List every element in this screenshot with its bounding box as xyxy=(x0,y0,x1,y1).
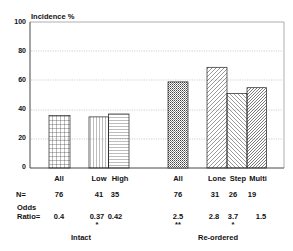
tick-80: 80 xyxy=(2,47,26,54)
n-label: N= xyxy=(16,190,26,199)
tick-40: 40 xyxy=(2,105,26,112)
sig-reordered-step: * xyxy=(218,220,248,229)
group-label-intact: Intact xyxy=(71,233,91,242)
bar-intact-low xyxy=(89,117,109,168)
bar-intact-all xyxy=(49,115,70,168)
tick-100: 100 xyxy=(2,18,26,25)
category-reordered-all: All xyxy=(163,174,193,183)
odds-label-line2: Ratio= xyxy=(17,212,40,221)
bar-reordered-multi xyxy=(247,88,267,168)
tick-60: 60 xyxy=(2,76,26,83)
sig-intact-low: * xyxy=(82,220,112,229)
n-intact-all: 76 xyxy=(44,190,74,199)
tick-20: 20 xyxy=(2,134,26,141)
group-label-reordered: Re-ordered xyxy=(198,233,238,242)
bars xyxy=(49,67,267,168)
odds-label-line1: Odds xyxy=(17,203,36,212)
n-intact-high: 35 xyxy=(100,190,130,199)
n-reordered-all: 76 xyxy=(163,190,193,199)
bar-reordered-lone xyxy=(207,67,227,168)
tick-0: 0 xyxy=(2,163,26,170)
category-intact-all: All xyxy=(44,174,74,183)
or-reordered-multi: 1.5 xyxy=(246,212,276,221)
or-intact-all: 0.4 xyxy=(44,212,74,221)
bar-reordered-all xyxy=(168,82,188,168)
bar-intact-high xyxy=(109,114,130,168)
n-reordered-multi: 19 xyxy=(237,190,267,199)
category-reordered-multi: Multi xyxy=(243,174,273,183)
category-intact-high: High xyxy=(105,174,135,183)
y-axis-label: Incidence % xyxy=(31,12,74,21)
bar-reordered-step xyxy=(227,94,247,169)
sig-reordered-all: ** xyxy=(163,220,193,229)
